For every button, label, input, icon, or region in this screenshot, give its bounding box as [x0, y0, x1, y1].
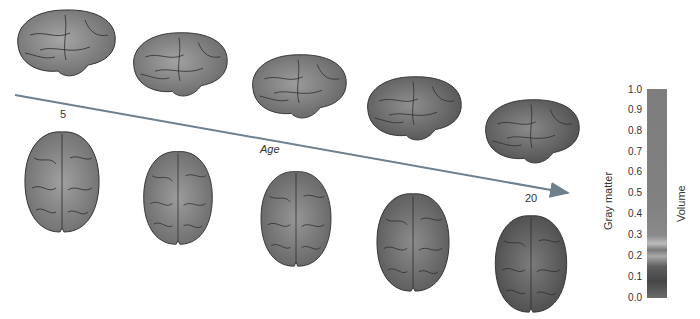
colorbar-label-gray-matter: Gray matter — [602, 172, 614, 230]
brain-lateral-5 — [475, 95, 587, 167]
colorbar-tick: 0.5 — [618, 187, 642, 198]
age-axis-label: Age — [260, 143, 280, 155]
colorbar-label-volume: Volume — [675, 185, 687, 222]
brain-lateral-2 — [125, 28, 233, 100]
brain-top-5 — [488, 212, 574, 316]
brain-top-2 — [138, 148, 218, 248]
brain-top-4 — [372, 190, 454, 295]
colorbar-tick: 0.1 — [618, 271, 642, 282]
colorbar-tick: 0.0 — [618, 292, 642, 303]
brain-top-1 — [22, 128, 102, 236]
age-start-label: 5 — [60, 108, 66, 120]
colorbar-tick: 0.3 — [618, 229, 642, 240]
brain-lateral-1 — [10, 5, 120, 80]
colorbar-tick: 0.7 — [618, 146, 642, 157]
age-end-label: 20 — [525, 192, 537, 204]
colorbar-tick: 0.9 — [618, 104, 642, 115]
brain-top-3 — [255, 168, 337, 270]
colorbar-tick: 0.6 — [618, 166, 642, 177]
brain-lateral-3 — [245, 50, 351, 122]
colorbar-tick: 0.8 — [618, 125, 642, 136]
colorbar-tick: 1.0 — [618, 84, 642, 95]
gray-matter-colorbar — [647, 89, 667, 298]
colorbar-tick: 0.4 — [618, 208, 642, 219]
colorbar-tick: 0.2 — [618, 250, 642, 261]
brain-lateral-4 — [360, 72, 466, 144]
